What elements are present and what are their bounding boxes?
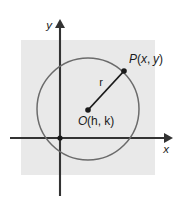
point-p-label-letter: P: [129, 52, 137, 66]
center-label: O (h, k): [78, 114, 114, 128]
center-label-letter: O: [78, 114, 87, 128]
circle-diagram-canvas: y x r P ( x , y ) O (h, k): [0, 0, 181, 209]
point-p-label: P ( x , y ): [129, 52, 163, 66]
origin-point: [57, 135, 62, 140]
y-axis-arrowhead: [55, 19, 65, 28]
radius-label: r: [99, 76, 103, 88]
center-point: [85, 107, 91, 113]
circle-diagram-figure: y x r P ( x , y ) O (h, k): [0, 0, 181, 209]
center-label-coords: (h, k): [87, 114, 114, 128]
point-p-label-close-paren: ): [159, 52, 163, 66]
point-p: [121, 68, 127, 74]
point-p-label-comma: ,: [147, 52, 150, 66]
x-axis-arrowhead: [164, 133, 173, 143]
y-axis-label: y: [45, 19, 53, 31]
x-axis-label: x: [162, 143, 170, 155]
